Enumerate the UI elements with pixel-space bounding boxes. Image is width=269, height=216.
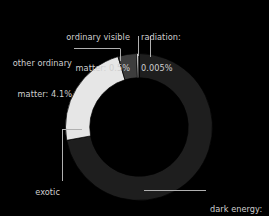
label-dark-energy: dark energy: 72.1% bbox=[210, 184, 268, 216]
label-other-ordinary-matter-line2: matter: 4.1% bbox=[2, 89, 72, 99]
label-radiation-line1: radiation: bbox=[141, 32, 211, 42]
label-other-ordinary-matter: other ordinary matter: 4.1% bbox=[2, 38, 72, 120]
chart-canvas: ordinary visible matter: 0.5% radiation:… bbox=[0, 0, 269, 216]
label-radiation-line2: 0.005% bbox=[141, 63, 211, 73]
label-radiation: radiation: 0.005% bbox=[141, 12, 211, 94]
label-other-ordinary-matter-line1: other ordinary bbox=[2, 58, 72, 68]
label-exotic-dark-matter: exotic dark matter: 23.3% bbox=[0, 167, 60, 216]
label-exotic-dark-matter-line1: exotic bbox=[0, 187, 60, 197]
label-dark-energy-line1: dark energy: bbox=[210, 204, 268, 214]
